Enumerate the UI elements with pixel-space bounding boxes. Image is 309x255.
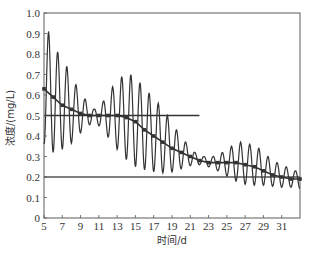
trend-marker	[252, 165, 256, 169]
y-tick-label: 0.3	[26, 151, 40, 163]
trend-marker	[115, 114, 119, 118]
trend-marker	[51, 95, 55, 99]
trend-marker	[207, 161, 211, 165]
trend-marker	[198, 159, 202, 163]
trend-marker	[289, 177, 293, 181]
y-tick-label: 0.7	[26, 69, 40, 81]
y-tick-label: 0.6	[26, 89, 40, 101]
x-tick-label: 29	[258, 220, 270, 232]
x-axis-title: 时间/d	[157, 234, 187, 246]
y-tick-label: 0.4	[26, 130, 40, 142]
y-tick-label: 0.9	[26, 28, 40, 40]
trend-marker	[42, 87, 46, 91]
chart-canvas: 5791113151719212325272931 00.10.20.30.40…	[0, 0, 309, 255]
trend-marker	[271, 173, 275, 177]
oscillation-series	[44, 31, 300, 188]
x-tick-label: 13	[112, 220, 124, 232]
trend-series	[42, 87, 302, 181]
trend-marker	[234, 161, 238, 165]
x-tick-label: 21	[185, 220, 196, 232]
trend-marker	[161, 140, 165, 144]
x-tick-label: 15	[130, 220, 142, 232]
trend-marker	[243, 163, 247, 167]
x-tick-label: 23	[203, 220, 215, 232]
y-tick-label: 1.0	[26, 7, 40, 19]
trend-marker	[262, 169, 266, 173]
trend-marker	[170, 147, 174, 151]
trend-marker	[97, 114, 101, 118]
x-tick-label: 9	[78, 220, 84, 232]
trend-marker	[106, 114, 110, 118]
trend-marker	[188, 155, 192, 159]
x-tick-label: 25	[221, 220, 233, 232]
trend-marker	[225, 161, 229, 165]
trend-marker	[60, 103, 64, 107]
x-tick-label: 7	[60, 220, 66, 232]
y-tick-label: 0.8	[26, 48, 40, 60]
y-tick-label: 0	[35, 212, 41, 224]
y-tick-label: 0.5	[26, 110, 40, 122]
x-tick-label: 19	[167, 220, 179, 232]
trend-marker	[280, 175, 284, 179]
trend-marker	[179, 151, 183, 155]
trend-marker	[124, 116, 128, 120]
trend-marker	[152, 134, 156, 138]
y-tick-label: 0.2	[26, 171, 40, 183]
y-axis-title: 浓度/(mg/L)	[4, 90, 16, 146]
x-tick-label: 17	[148, 220, 160, 232]
concentration-time-chart: 5791113151719212325272931 00.10.20.30.40…	[0, 0, 309, 255]
trend-marker	[216, 161, 220, 165]
x-tick-label: 27	[240, 220, 252, 232]
y-tick-label: 0.1	[26, 192, 40, 204]
trend-marker	[143, 128, 147, 132]
trend-marker	[70, 108, 74, 112]
oscillation-line	[44, 31, 300, 188]
x-tick-label: 11	[94, 220, 105, 232]
x-tick-label: 5	[41, 220, 47, 232]
x-tick-label: 31	[276, 220, 287, 232]
trend-marker	[79, 112, 83, 116]
trend-marker	[298, 177, 302, 181]
trend-line	[44, 89, 300, 179]
trend-marker	[134, 120, 138, 124]
trend-marker	[88, 114, 92, 118]
